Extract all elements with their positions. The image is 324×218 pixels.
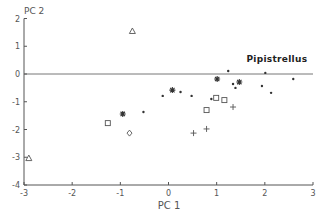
y-tick-label: 2: [15, 15, 20, 24]
x-tick-label: 2: [262, 189, 267, 198]
asterisk-point: [169, 87, 175, 93]
asterisk-point: [236, 79, 242, 85]
dot-point: [142, 111, 144, 113]
triangle-point: [129, 28, 135, 34]
square-point: [222, 98, 227, 103]
plus-point: [204, 126, 210, 132]
x-tick-label: -1: [116, 189, 124, 198]
x-tick-label: 1: [214, 189, 219, 198]
axes: [24, 19, 313, 186]
y-tick-label: 0: [15, 70, 20, 79]
annotations: Pipistrellus: [246, 54, 307, 64]
dot-point: [292, 78, 294, 80]
x-tick-label: -3: [20, 189, 28, 198]
asterisk-point: [120, 111, 126, 117]
square-point: [214, 95, 219, 100]
x-ticks: -3-2-10123: [20, 182, 316, 198]
diamond-point: [127, 130, 132, 136]
y-tick-label: -2: [12, 126, 20, 135]
dot-point: [264, 72, 266, 74]
dot-point: [210, 98, 212, 100]
x-tick-label: 0: [166, 189, 171, 198]
dot-point: [162, 95, 164, 97]
dot-point: [232, 83, 234, 85]
annotation-label: Pipistrellus: [246, 54, 307, 64]
asterisk-point: [214, 76, 220, 82]
y-tick-label: -1: [12, 98, 20, 107]
y-tick-label: -3: [12, 153, 20, 162]
x-axis-label: PC 1: [158, 200, 181, 211]
y-tick-label: 1: [15, 42, 20, 51]
dot-point: [179, 91, 181, 93]
dot-point: [270, 92, 272, 94]
square-point: [105, 121, 110, 126]
data-points: [26, 28, 295, 161]
triangle-point: [26, 155, 32, 161]
scatter-chart: -3-2-10123 210-1-2-3-4 PC 1 PC 2 Pipistr…: [0, 0, 324, 218]
x-tick-label: -2: [68, 189, 76, 198]
plus-point: [230, 104, 236, 110]
dot-point: [261, 85, 263, 87]
dot-point: [190, 95, 192, 97]
square-point: [204, 108, 209, 113]
x-tick-label: 3: [310, 189, 315, 198]
plus-point: [191, 130, 197, 136]
dot-point: [227, 70, 229, 72]
y-tick-label: -4: [12, 181, 20, 190]
dot-point: [234, 87, 236, 89]
y-axis-label: PC 2: [24, 6, 44, 16]
y-ticks: 210-1-2-3-4: [12, 15, 27, 191]
